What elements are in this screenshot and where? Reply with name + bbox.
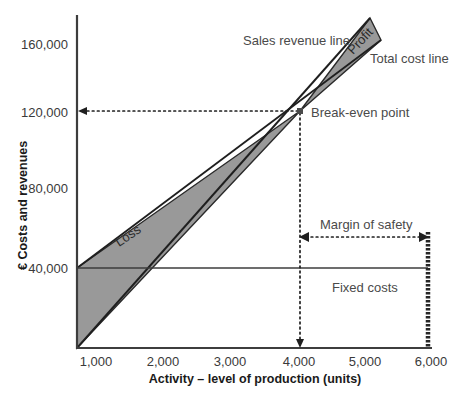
x-tick-label-4000: 4,000 xyxy=(283,354,316,369)
x-tick-label-6000: 6,000 xyxy=(415,354,448,369)
break-even-vertical-arrowhead xyxy=(296,339,304,348)
annotation-sales-revenue-line: Sales revenue line xyxy=(243,33,350,48)
loss-region xyxy=(77,111,300,348)
x-tick-label-3000: 3,000 xyxy=(214,354,247,369)
y-tick-label-160000: 160,000 xyxy=(21,37,68,52)
break-even-chart: 160,000 120,000 80,000 40,000 1,000 2,00… xyxy=(0,0,472,397)
sales-revenue-line xyxy=(77,18,370,348)
x-axis-title: Activity – level of production (units) xyxy=(149,372,362,386)
chart-canvas: 160,000 120,000 80,000 40,000 1,000 2,00… xyxy=(0,0,472,397)
annotation-break-even-point: Break-even point xyxy=(311,105,410,120)
annotation-fixed-costs: Fixed costs xyxy=(332,280,398,295)
y-tick-label-40000: 40,000 xyxy=(28,261,68,276)
annotation-total-cost-line: Total cost line xyxy=(370,51,449,66)
x-tick-label-5000: 5,000 xyxy=(349,354,382,369)
break-even-horizontal-arrowhead xyxy=(78,107,87,115)
x-tick-label-1000: 1,000 xyxy=(80,354,113,369)
annotation-margin-of-safety: Margin of safety xyxy=(320,217,413,232)
y-axis-title: € Costs and revenues xyxy=(16,141,30,270)
y-tick-label-80000: 80,000 xyxy=(28,181,68,196)
x-tick-label-2000: 2,000 xyxy=(147,354,180,369)
break-even-point-marker xyxy=(297,108,303,114)
y-tick-label-120000: 120,000 xyxy=(21,105,68,120)
